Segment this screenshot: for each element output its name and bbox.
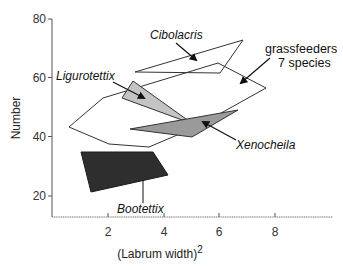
grassfeeders-count-label: 7 species bbox=[278, 56, 331, 70]
grassfeeders-label: grassfeeders bbox=[265, 42, 337, 56]
x-axis-title: (Labrum width)2 bbox=[117, 244, 203, 261]
x-tick-label-4: 4 bbox=[161, 225, 168, 239]
y-tick-label-20: 20 bbox=[33, 189, 47, 203]
chart-canvas: 80 60 40 20 Number 2 4 6 8 (Labrum width… bbox=[0, 0, 343, 270]
bootettix-label: Bootettix bbox=[117, 202, 165, 216]
x-axis: 2 4 6 8 (Labrum width)2 bbox=[52, 213, 333, 261]
ligurotettix-hull bbox=[122, 81, 193, 124]
y-tick-label-60: 60 bbox=[33, 71, 47, 85]
cibolacris-label: Cibolacris bbox=[150, 28, 203, 42]
y-tick-label-40: 40 bbox=[33, 130, 47, 144]
cibolacris-arrow bbox=[176, 43, 196, 60]
x-axis-title-superscript: 2 bbox=[197, 244, 203, 255]
bootettix-hull bbox=[81, 152, 168, 192]
ligurotettix-label: Ligurotettix bbox=[56, 69, 116, 83]
x-tick-label-6: 6 bbox=[216, 225, 223, 239]
xenocheila-label: Xenocheila bbox=[235, 138, 296, 152]
x-axis-title-text: (Labrum width) bbox=[117, 247, 197, 261]
y-axis-title: Number bbox=[9, 97, 23, 140]
xenocheila-hull bbox=[130, 110, 238, 137]
x-tick-label-2: 2 bbox=[105, 225, 112, 239]
y-tick-label-80: 80 bbox=[33, 12, 47, 26]
grassfeeders-arrow bbox=[241, 58, 270, 83]
xenocheila-arrow bbox=[203, 122, 236, 140]
y-axis: 80 60 40 20 Number bbox=[9, 12, 52, 217]
x-tick-label-8: 8 bbox=[272, 225, 279, 239]
